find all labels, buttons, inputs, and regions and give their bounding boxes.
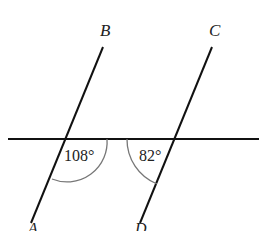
line-c: [140, 47, 212, 223]
svg-text:A: A: [27, 220, 38, 231]
angle-label-82: 82°: [139, 148, 161, 164]
svg-text:D: D: [134, 220, 147, 231]
point-label-b: B: [100, 22, 110, 39]
geometry-figure: A D: [0, 0, 274, 231]
line-b: [31, 47, 103, 223]
point-label-c: C: [209, 22, 220, 39]
angle-label-108: 108°: [64, 148, 94, 164]
